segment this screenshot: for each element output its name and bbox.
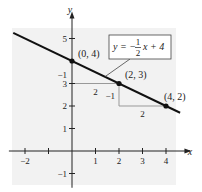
slope-rise-label: −1: [105, 91, 115, 101]
x-tick-label: 2: [117, 156, 122, 166]
x-tick-label: −2: [20, 156, 30, 166]
y-axis-label: y: [67, 4, 73, 15]
slope-run-label: 2: [140, 109, 145, 119]
slope-run-label: 2: [93, 87, 98, 97]
x-tick-label: 3: [140, 156, 145, 166]
x-tick-label: 4: [164, 156, 169, 166]
y-tick-label: −1: [57, 169, 67, 179]
fraction-numerator: 1: [136, 37, 141, 47]
point-label: (2, 3): [125, 69, 147, 81]
chart: 2−1−12 −21234−11235 (0, 4)(2, 3)(4, 2) y…: [0, 0, 202, 192]
svg-text:y = −: y = −: [112, 41, 136, 52]
equation-prefix: y = −: [112, 41, 136, 52]
x-axis-label: x: [187, 146, 193, 157]
point-label: (4, 2): [164, 91, 186, 103]
data-point: [163, 103, 168, 108]
data-point: [69, 58, 74, 63]
x-tick-label: 1: [93, 156, 98, 166]
y-tick-label: 1: [63, 124, 68, 134]
y-tick-label: 5: [63, 34, 68, 44]
y-tick-label: 3: [63, 79, 68, 89]
equation-suffix: x + 4: [142, 41, 164, 52]
point-label: (0, 4): [78, 48, 100, 60]
y-tick-label: 2: [63, 101, 68, 111]
data-point: [116, 81, 121, 86]
fraction-denominator: 2: [136, 48, 141, 58]
